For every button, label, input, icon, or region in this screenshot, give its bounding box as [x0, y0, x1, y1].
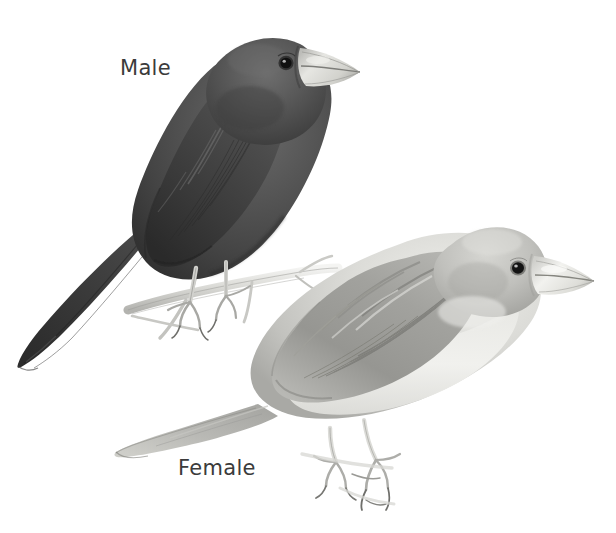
female-label: Female: [178, 456, 256, 480]
male-label: Male: [120, 56, 171, 80]
bird-illustration-plate: Male Female: [0, 0, 616, 533]
bird-plate-artwork: [0, 0, 616, 533]
